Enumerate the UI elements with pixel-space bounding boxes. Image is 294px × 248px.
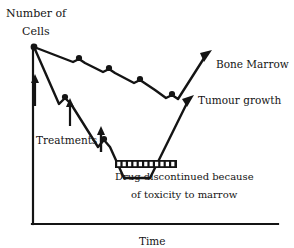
drug-caption-line1: Drug discontinued because (115, 172, 254, 182)
drug-caption-line2: of toxicity to marrow (131, 190, 237, 200)
drug-discontinued-bar (115, 160, 177, 168)
treatment-arrow-2 (66, 98, 74, 126)
tumour-growth-arrowhead (182, 95, 194, 107)
bone-marrow-curve-group (31, 44, 212, 99)
tumour-peak-dot (62, 94, 68, 100)
y-axis-label-line1: Number of (6, 8, 66, 19)
tumour-growth-curve-group (34, 47, 194, 178)
bone-marrow-curve (34, 47, 206, 99)
bone-marrow-peak-dot (137, 76, 143, 82)
tumour-growth-label: Tumour growth (198, 95, 281, 106)
figure-canvas: Number of Cells Bone Marrow Tumour growt… (0, 0, 294, 248)
bone-marrow-peak-dot (76, 55, 82, 61)
x-axis-label: Time (139, 236, 166, 247)
bone-marrow-peak-dot (106, 65, 112, 71)
bone-marrow-peak-dot (169, 91, 175, 97)
treatments-label: Treatments (36, 135, 97, 146)
y-axis-label-line2: Cells (22, 26, 50, 37)
bone-marrow-label: Bone Marrow (216, 59, 289, 70)
